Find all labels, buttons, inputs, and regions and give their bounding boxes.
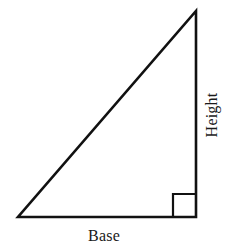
height-label: Height [204, 93, 220, 138]
right-triangle-figure [0, 0, 236, 251]
triangle-shape [18, 11, 196, 217]
base-label: Base [0, 228, 208, 244]
triangle-diagram-canvas: Base Height [0, 0, 236, 251]
